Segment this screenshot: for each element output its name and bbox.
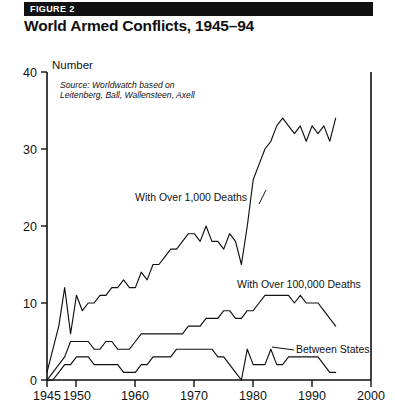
series-line-over-1000-deaths — [47, 118, 336, 372]
y-tick-label: 10 — [23, 297, 37, 311]
x-tick-label: 1960 — [121, 389, 149, 403]
x-tick-label: 1980 — [239, 389, 267, 403]
x-axis-labels: 1945 1950 1960 1970 1980 1990 2000 — [33, 389, 385, 403]
line-chart: 0 10 20 30 40 Number 1945 1950 1960 1970… — [0, 0, 395, 414]
y-tick-label: 40 — [23, 66, 37, 80]
x-tick-label: 2000 — [357, 389, 385, 403]
leader-line-over-1000-deaths — [259, 190, 266, 204]
x-tick-label: 1970 — [180, 389, 208, 403]
chart-axes — [47, 72, 371, 380]
x-tick-label: 1990 — [298, 389, 326, 403]
series-label-over-100000-deaths: With Over 100,000 Deaths — [237, 278, 361, 290]
series-label-over-1000-deaths: With Over 1,000 Deaths — [135, 191, 247, 203]
series-line-between-states — [47, 349, 336, 380]
source-note: Source: Worldwatch based on Leitenberg, … — [60, 80, 196, 100]
y-tick-label: 0 — [30, 374, 37, 388]
y-axis-ticks — [41, 72, 47, 380]
x-tick-label: 1950 — [63, 389, 91, 403]
y-tick-label: 20 — [23, 220, 37, 234]
series-label-between-states: Between States — [296, 343, 370, 355]
y-axis-labels: 0 10 20 30 40 — [23, 66, 37, 388]
leader-line-between-states — [272, 347, 294, 350]
x-tick-label: 1945 — [33, 389, 61, 403]
y-axis-title: Number — [52, 59, 93, 71]
x-axis-ticks — [47, 380, 371, 387]
source-note-line1: Source: Worldwatch based on — [60, 80, 175, 90]
source-note-line2: Leitenberg, Ball, Wallensteen, Axell — [60, 90, 196, 100]
chart-container: 0 10 20 30 40 Number 1945 1950 1960 1970… — [0, 0, 395, 414]
y-tick-label: 30 — [23, 143, 37, 157]
series-line-over-100000-deaths — [47, 295, 336, 380]
